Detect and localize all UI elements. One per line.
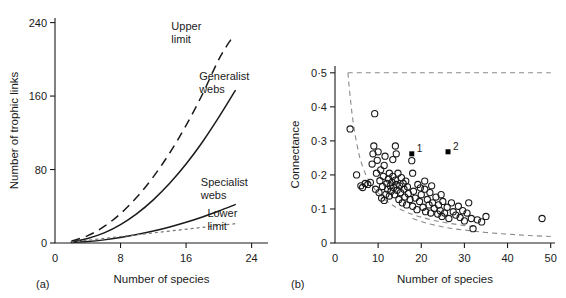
data-point-open — [347, 126, 353, 132]
panel-b-connectance: 00·10·20·30·40·501020304050Number of spe… — [283, 0, 566, 298]
figure-container: 080160240081624Number of speciesNumber o… — [0, 0, 566, 298]
annotation-upper: Upper — [171, 20, 201, 32]
data-point-filled — [446, 149, 451, 154]
data-point-open — [381, 162, 387, 168]
y-tick-label-b: 0·3 — [311, 135, 327, 147]
data-point-open — [539, 215, 545, 221]
panel-a-svg: 080160240081624Number of speciesNumber o… — [0, 0, 283, 298]
y-tick-label-a: 160 — [29, 90, 47, 102]
panel-b-svg: 00·10·20·30·40·501020304050Number of spe… — [283, 0, 566, 298]
data-point-open — [373, 170, 379, 176]
data-point-open — [422, 178, 428, 184]
data-point-open — [416, 198, 422, 204]
data-point-open — [374, 157, 380, 163]
data-point-open — [438, 192, 444, 198]
data-point-open — [372, 111, 378, 117]
y-tick-label-a: 80 — [35, 164, 47, 176]
data-point-open — [393, 151, 399, 157]
data-point-open — [409, 158, 415, 164]
data-point-open — [390, 157, 396, 163]
y-tick-label-b: 0·1 — [311, 203, 327, 215]
x-tick-label-b: 10 — [372, 252, 384, 264]
x-tick-label-b: 40 — [501, 252, 513, 264]
y-tick-label-b: 0·2 — [311, 169, 327, 181]
annotation-limit: limit — [171, 33, 191, 45]
data-point-open — [440, 198, 446, 204]
annotation-generalist: Generalist — [199, 70, 249, 82]
data-point-open — [446, 215, 452, 221]
data-point-label-2: 2 — [453, 141, 459, 152]
x-tick-label-b: 20 — [415, 252, 427, 264]
data-point-open — [466, 200, 472, 206]
y-tick-label-a: 0 — [41, 237, 47, 249]
y-axis-title-a: Number of trophic links — [8, 71, 20, 189]
data-point-open — [392, 143, 398, 149]
x-axis-title-b: Number of species — [397, 273, 493, 285]
x-tick-label-a: 16 — [180, 252, 192, 264]
boundary-lower-limit-boundary — [413, 218, 551, 236]
data-point-open — [371, 143, 377, 149]
data-point-open — [410, 170, 416, 176]
y-tick-label-a: 240 — [29, 17, 47, 29]
data-point-open — [353, 172, 359, 178]
annotation-limit: limit — [207, 220, 227, 232]
x-tick-label-b: 0 — [332, 252, 338, 264]
data-point-open — [427, 190, 433, 196]
x-tick-label-a: 0 — [52, 252, 58, 264]
annotation-webs: webs — [198, 83, 225, 95]
data-point-open — [410, 188, 416, 194]
data-point-open — [429, 183, 435, 189]
y-tick-label-b: 0·4 — [311, 101, 327, 113]
data-point-open — [461, 218, 467, 224]
data-point-filled — [409, 151, 414, 156]
data-point-open — [468, 215, 474, 221]
y-tick-label-b: 0·5 — [311, 67, 327, 79]
data-point-open — [410, 203, 416, 209]
panel-a-trophic-links: 080160240081624Number of speciesNumber o… — [0, 0, 283, 298]
data-point-open — [448, 200, 454, 206]
annotation-webs: webs — [200, 189, 227, 201]
x-tick-label-a: 8 — [117, 252, 123, 264]
data-point-open — [483, 213, 489, 219]
x-axis-title-a: Number of species — [114, 273, 210, 285]
x-tick-label-b: 30 — [458, 252, 470, 264]
x-tick-label-a: 24 — [245, 252, 257, 264]
data-point-open — [431, 205, 437, 211]
y-axis-title-b: Connectance — [289, 121, 301, 189]
data-point-open — [382, 153, 388, 159]
x-tick-label-b: 50 — [545, 252, 557, 264]
annotation-lower: Lower — [207, 207, 237, 219]
data-point-label-1: 1 — [417, 143, 423, 154]
annotation-specialist: Specialist — [201, 176, 248, 188]
y-tick-label-b: 0 — [321, 237, 327, 249]
data-point-open — [414, 207, 420, 213]
